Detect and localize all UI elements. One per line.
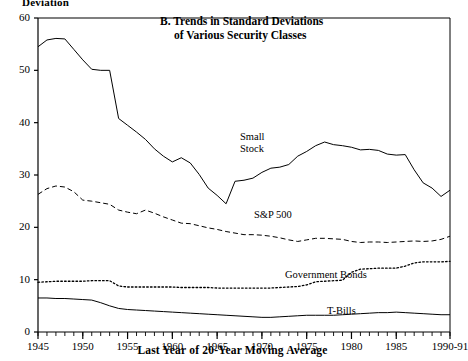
y-tick-label: 50 [8,63,30,75]
y-tick-label: 10 [8,273,30,285]
series-label-tbills: T-Bills [327,305,356,317]
series-label-sp500: S&P 500 [254,209,292,221]
series-line-small-stock [38,38,450,203]
series-line-s-p-500 [38,186,450,243]
series-label-government-bonds: Government Bonds [285,269,367,281]
series-label-small-stock-line1: Small [240,131,265,143]
series-label-small-stock-line2: Stock [240,143,265,155]
series-label-small-stock: Small Stock [240,131,265,155]
y-tick-label: 40 [8,116,30,128]
y-axis-caption: Deviation [22,0,69,8]
y-tick-label: 0 [8,325,30,337]
y-tick-label: 60 [8,11,30,23]
chart-title-line-2: of Various Security Classes [160,28,390,42]
x-axis-caption: Last Year of 20-Year Moving Average [0,344,465,356]
chart-title-line-1: B. Trends in Standard Deviations [160,14,390,28]
data-series [38,38,450,317]
series-line-t-bills [38,298,450,317]
y-tick-label: 20 [8,220,30,232]
series-line-government-bonds [38,261,450,288]
axes [34,18,450,339]
chart-title: B. Trends in Standard Deviations of Vari… [160,14,390,42]
y-tick-label: 30 [8,168,30,180]
